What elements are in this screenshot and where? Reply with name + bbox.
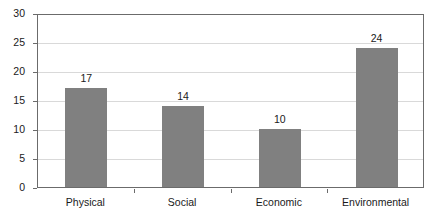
x-axis-category-label: Social: [168, 196, 197, 208]
x-axis-tick-mark: [231, 189, 232, 193]
bar: [65, 88, 107, 187]
bar-group: 24: [328, 15, 425, 187]
bar-group: 10: [232, 15, 329, 187]
bar-value-label: 10: [274, 114, 286, 125]
bar: [356, 48, 398, 187]
y-axis: 051015202530: [0, 0, 33, 222]
plot-area: 17141024: [37, 14, 424, 188]
y-axis-tick-label: 20: [13, 66, 25, 77]
x-axis-tick-mark: [327, 189, 328, 193]
bar-group: 17: [38, 15, 135, 187]
bar-value-label: 17: [81, 73, 93, 84]
bar: [259, 129, 301, 187]
bar-chart: 051015202530 17141024 PhysicalSocialEcon…: [0, 0, 435, 222]
bar-group: 14: [135, 15, 232, 187]
x-axis-category-label: Economic: [256, 196, 302, 208]
x-axis: PhysicalSocialEconomicEnvironmental: [37, 189, 424, 214]
x-axis-category-label: Physical: [66, 196, 105, 208]
bar: [162, 106, 204, 187]
y-axis-tick-label: 30: [13, 8, 25, 19]
x-axis-category-label: Environmental: [342, 196, 409, 208]
y-axis-tick-label: 5: [19, 153, 25, 164]
bar-value-label: 14: [177, 91, 189, 102]
bar-value-label: 24: [371, 33, 383, 44]
y-axis-tick-label: 0: [19, 182, 25, 193]
y-axis-tick-label: 10: [13, 124, 25, 135]
y-axis-tick-label: 25: [13, 37, 25, 48]
x-axis-tick-mark: [134, 189, 135, 193]
y-axis-tick-label: 15: [13, 95, 25, 106]
